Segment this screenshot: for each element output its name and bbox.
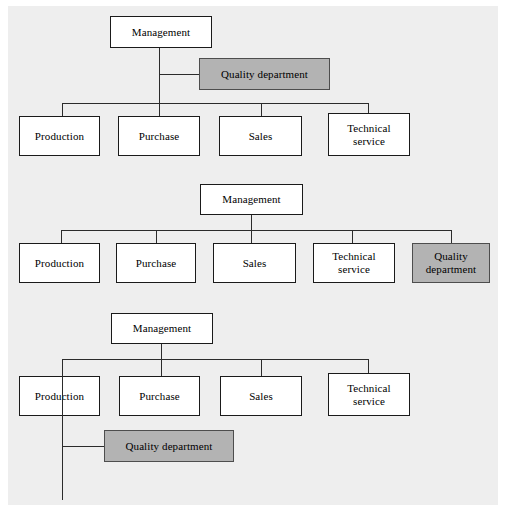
node-label: Production: [33, 257, 86, 270]
connector-drop-sales-3: [261, 359, 262, 376]
node-quality-department-2[interactable]: Quality department: [412, 243, 490, 283]
node-label: Production: [33, 130, 86, 143]
node-label-line2: service: [338, 263, 370, 275]
node-label: Management: [130, 26, 192, 39]
node-management-3[interactable]: Management: [111, 313, 213, 344]
node-technical-service-2[interactable]: Technical service: [313, 243, 395, 283]
node-sales-3[interactable]: Sales: [220, 376, 302, 416]
connector-drop-sales-2: [251, 230, 252, 243]
connector-drop-production-2: [61, 230, 62, 243]
node-purchase-1[interactable]: Purchase: [118, 116, 200, 156]
connector-production-trunk-3: [62, 376, 63, 500]
connector-drop-production-1: [62, 103, 63, 116]
connector-quality-stub-1: [159, 74, 200, 75]
node-label-line2: service: [353, 395, 385, 407]
connector-management-trunk-1: [159, 48, 160, 104]
node-label: Production: [33, 390, 86, 403]
node-purchase-2[interactable]: Purchase: [116, 243, 196, 283]
connector-management-trunk-3: [161, 344, 162, 360]
node-quality-department-1[interactable]: Quality department: [199, 58, 330, 90]
node-label-line2: department: [426, 263, 476, 275]
node-sales-1[interactable]: Sales: [219, 116, 302, 156]
node-label: Quality department: [219, 68, 310, 81]
figure-canvas: Management Quality department Production…: [0, 0, 506, 509]
node-quality-department-3[interactable]: Quality department: [104, 430, 234, 462]
connector-drop-purchase-1: [159, 103, 160, 116]
connector-drop-purchase-2: [156, 230, 157, 243]
node-label: Management: [220, 193, 282, 206]
connector-drop-technical-2: [352, 230, 353, 243]
node-production-3[interactable]: Production: [19, 376, 100, 416]
node-sales-2[interactable]: Sales: [213, 243, 296, 283]
node-label: Quality department: [123, 440, 214, 453]
node-label-line1: Technical: [347, 122, 391, 134]
node-label: Purchase: [137, 130, 182, 143]
node-technical-service-1[interactable]: Technical service: [328, 113, 410, 156]
node-management-1[interactable]: Management: [110, 16, 212, 48]
node-production-2[interactable]: Production: [19, 243, 100, 283]
node-label: Sales: [241, 257, 269, 270]
connector-drop-purchase-3: [161, 359, 162, 376]
node-management-2[interactable]: Management: [200, 184, 303, 215]
node-label: Technical service: [345, 382, 393, 407]
node-label: Sales: [247, 390, 275, 403]
node-label: Sales: [247, 130, 275, 143]
node-label: Quality department: [424, 250, 478, 275]
node-technical-service-3[interactable]: Technical service: [328, 373, 410, 416]
connector-bus-2: [61, 230, 451, 231]
node-label-line1: Quality: [434, 250, 468, 262]
node-label-line2: service: [353, 135, 385, 147]
node-label: Technical service: [345, 122, 393, 147]
connector-bus-1: [62, 103, 369, 104]
node-production-1[interactable]: Production: [19, 116, 100, 156]
connector-drop-sales-1: [261, 103, 262, 116]
node-label: Purchase: [134, 257, 179, 270]
connector-quality-stub-3: [62, 446, 105, 447]
connector-bus-3: [62, 359, 369, 360]
node-label: Management: [131, 322, 193, 335]
connector-management-trunk-2: [251, 215, 252, 231]
connector-drop-quality-2: [451, 230, 452, 243]
connector-drop-production-3: [62, 359, 63, 376]
node-label: Technical service: [330, 250, 378, 275]
node-label-line1: Technical: [332, 250, 376, 262]
node-purchase-3[interactable]: Purchase: [119, 376, 200, 416]
node-label: Purchase: [137, 390, 182, 403]
node-label-line1: Technical: [347, 382, 391, 394]
